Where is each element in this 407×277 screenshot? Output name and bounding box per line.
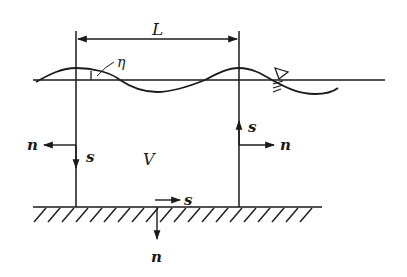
right-tangent-label: s [248, 118, 257, 136]
water-level-triangle-icon [275, 68, 288, 79]
volume-label: V [143, 150, 156, 169]
seabed [33, 207, 322, 222]
eta-label: η [117, 54, 126, 70]
surface-elevation-marker: η [91, 54, 126, 80]
bottom-normal-label: n [151, 248, 162, 266]
left-normal-label: n [27, 136, 38, 154]
wavelength-dimension: L [78, 19, 237, 39]
free-surface-wave [36, 68, 338, 94]
wavelength-label: L [151, 19, 163, 39]
left-boundary-vectors: n s [27, 136, 95, 168]
bottom-tangent-label: s [184, 191, 193, 209]
bottom-boundary-vectors: s n [151, 191, 193, 266]
left-tangent-label: s [86, 148, 95, 166]
right-normal-label: n [280, 136, 291, 154]
right-boundary-vectors: s n [239, 118, 291, 154]
seabed-hatching [34, 208, 312, 222]
wave-control-volume-diagram: L η [0, 0, 407, 277]
